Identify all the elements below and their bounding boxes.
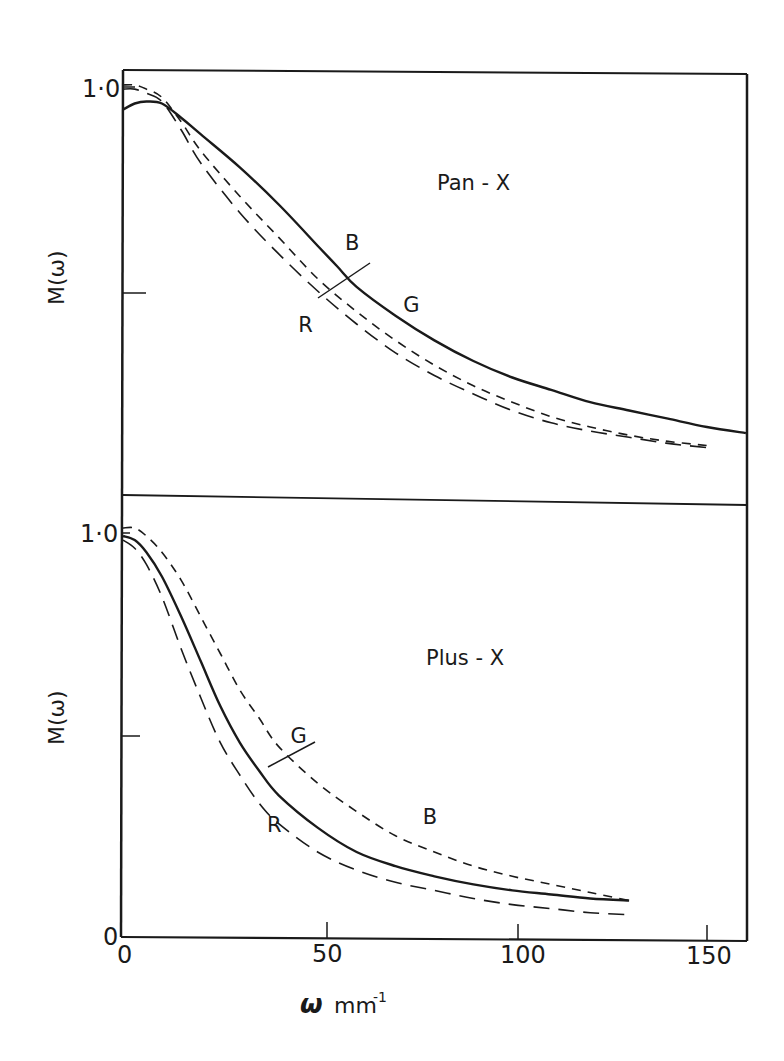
y-axis-label-top: M(ω): [44, 250, 69, 305]
panel-title-plus-x: Plus - X: [426, 646, 504, 670]
x-axis-label-unit: mm: [334, 993, 377, 1018]
curve-label-g: G: [290, 724, 306, 748]
curve-r-plus-x: [123, 540, 629, 915]
x-axis-label-exp: -1: [373, 989, 387, 1005]
curve-label-r: R: [267, 813, 282, 837]
x-tick-50: 50: [312, 940, 343, 968]
curve-label-g: G: [403, 293, 419, 317]
x-tick-0: 0: [117, 941, 132, 969]
y-tick-bottom-0: 0: [103, 923, 118, 951]
curve-label-b: B: [345, 231, 359, 255]
curve-label-r: R: [298, 313, 313, 337]
x-axis: [121, 937, 747, 941]
mtf-chart: 1·0 1·0 0 0 50 100 150 M(ω) M(ω) ω mm -1…: [0, 0, 784, 1061]
curve-label-b: B: [423, 805, 437, 829]
x-tick-150: 150: [686, 942, 732, 970]
y-axis-label-bottom: M(ω): [44, 690, 69, 745]
panel-title-pan-x: Pan - X: [437, 171, 510, 195]
curve-b-pan-x: [123, 85, 707, 446]
panel-separator: [123, 495, 747, 505]
curve-g-pan-x: [123, 101, 746, 433]
y-tick-top-1: 1·0: [82, 75, 120, 103]
curve-g-plus-x: [123, 536, 629, 901]
curve-b-plus-x: [123, 527, 629, 900]
x-tick-100: 100: [500, 941, 546, 969]
annotation-layer: BGRGBR: [267, 231, 437, 837]
y-tick-bottom-1: 1·0: [80, 520, 118, 548]
x-axis-label-omega: ω: [300, 989, 323, 1019]
